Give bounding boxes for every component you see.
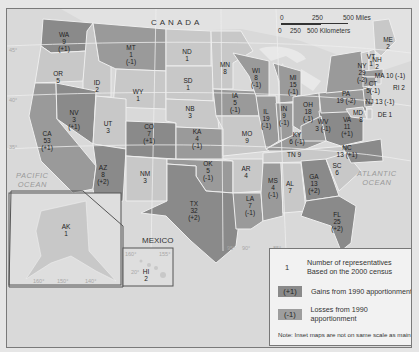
state-tx[interactable]: TX32(+2) xyxy=(188,200,200,221)
state-or[interactable]: OR5 xyxy=(53,70,63,84)
gain-swatch: (+1) xyxy=(278,286,302,297)
loss-swatch: (-1) xyxy=(278,309,302,320)
state-ga[interactable]: GA13(+2) xyxy=(308,173,320,194)
state-mn[interactable]: MN8 xyxy=(220,61,230,75)
state-ct[interactable]: CT5(-1) xyxy=(366,80,380,94)
state-id[interactable]: ID2 xyxy=(94,79,101,93)
state-nd[interactable]: ND1 xyxy=(182,48,191,62)
state-al[interactable]: AL7 xyxy=(286,180,294,194)
state-co[interactable]: CO7(+1) xyxy=(143,123,155,144)
state-oh[interactable]: OH18(-1) xyxy=(303,101,313,122)
map-frame: CANADA MEXICO PACIFICOCEAN ATLANTICOCEAN… xyxy=(6,8,412,348)
legend-number-row: 1 Number of representativesBased on the … xyxy=(270,258,392,276)
state-in[interactable]: IN9(-1) xyxy=(279,105,289,126)
state-la[interactable]: LA7(-1) xyxy=(245,195,255,216)
state-tn[interactable]: TN 9 xyxy=(287,151,301,158)
state-ky[interactable]: KY 6 (-1) xyxy=(289,131,305,145)
legend-loss-row: (-1) Losses from 1990 apportionment xyxy=(270,305,412,323)
state-mo[interactable]: MO9 xyxy=(242,130,252,144)
atlantic-ocean-label: ATLANTICOCEAN xyxy=(357,169,397,187)
state-ms[interactable]: MS4(-1) xyxy=(268,177,278,198)
mexico-label: MEXICO xyxy=(142,236,174,245)
state-nh[interactable]: NH2 xyxy=(372,56,381,70)
state-de[interactable]: DE 1 xyxy=(378,111,392,118)
pacific-ocean-label: PACIFICOCEAN xyxy=(16,171,49,189)
state-pa[interactable]: PA19 (-2) xyxy=(336,90,355,104)
state-ca[interactable]: CA53(+1) xyxy=(41,130,53,151)
state-ri[interactable]: RI 2 xyxy=(393,84,405,91)
state-ka[interactable]: KA4(-1) xyxy=(192,128,202,149)
state-fl[interactable]: FL25(+2) xyxy=(331,211,343,232)
state-mi[interactable]: MI15(-1) xyxy=(288,74,298,95)
state-nb[interactable]: NB3 xyxy=(185,105,194,119)
state-wy[interactable]: WY1 xyxy=(133,88,143,102)
state-az[interactable]: AZ8(+2) xyxy=(97,164,109,185)
legend-note: Note: Inset maps are not on same scale a… xyxy=(278,331,412,338)
state-ok[interactable]: OK5(-1) xyxy=(203,160,213,181)
state-nv[interactable]: NV3(+1) xyxy=(68,109,80,130)
state-hi[interactable]: HI2 xyxy=(143,268,150,282)
state-ak[interactable]: AK1 xyxy=(62,223,71,237)
state-nc[interactable]: NC13 (+1) xyxy=(337,144,358,158)
state-wv[interactable]: WV3 (-1) xyxy=(315,118,331,132)
state-wa[interactable]: WA9(+1) xyxy=(58,31,70,52)
state-ar[interactable]: AR4 xyxy=(241,165,250,179)
state-md[interactable]: MD8 xyxy=(353,109,363,123)
state-sd[interactable]: SD1 xyxy=(183,77,192,91)
state-wi[interactable]: WI8(-1) xyxy=(251,67,261,88)
state-sc[interactable]: SC6 xyxy=(332,162,341,176)
state-mt[interactable]: MT1(-1) xyxy=(126,44,136,65)
legend: 1 Number of representativesBased on the … xyxy=(269,248,412,346)
canada-label: CANADA xyxy=(151,18,202,27)
state-il[interactable]: IL19(-1) xyxy=(261,108,271,129)
legend-gain-row: (+1) Gains from 1990 apportionment xyxy=(270,286,412,297)
state-nm[interactable]: NM3 xyxy=(140,170,150,184)
state-ia[interactable]: IA5(-1) xyxy=(230,92,240,113)
state-nj[interactable]: NJ 13 (-1) xyxy=(366,98,395,105)
state-ut[interactable]: UT3 xyxy=(104,120,113,134)
state-ma[interactable]: MA 10 (-1) xyxy=(375,72,405,79)
state-va[interactable]: VA11(+1) xyxy=(341,116,353,137)
state-me[interactable]: ME2 xyxy=(383,36,393,50)
